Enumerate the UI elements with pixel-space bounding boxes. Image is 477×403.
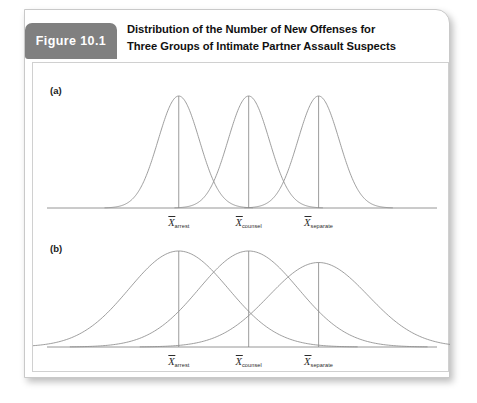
x-bar-overline (169, 355, 176, 356)
x-bar-symbol: X (235, 217, 241, 228)
normal-curve-arrest (33, 251, 358, 347)
x-bar-symbol: X (304, 217, 310, 228)
x-bar-symbol: X (235, 356, 241, 367)
x-bar-symbol: X (168, 356, 174, 367)
mean-label-arrest: Xarrest (168, 212, 189, 230)
mean-label-counsel: Xcounsel (235, 212, 261, 230)
x-bar-overline (236, 216, 243, 217)
figure-root: Figure 10.1 Distribution of the Number o… (0, 0, 477, 403)
x-bar-overline (169, 216, 176, 217)
x-bar-symbol: X (304, 356, 310, 367)
mean-label-subscript: separate (311, 362, 334, 368)
figure-card: Figure 10.1 Distribution of the Number o… (24, 9, 450, 378)
mean-label-subscript: arrest (175, 223, 190, 229)
figure-title-line-2: Three Groups of Intimate Partner Assault… (127, 38, 441, 55)
figure-title: Distribution of the Number of New Offens… (127, 21, 441, 54)
mean-label-counsel: Xcounsel (235, 351, 261, 369)
mean-label-subscript: counsel (242, 362, 262, 368)
figure-number-tag: Figure 10.1 (25, 23, 117, 59)
mean-label-separate: Xseparate (304, 212, 333, 230)
mean-label-subscript: separate (311, 223, 334, 229)
figure-title-line-1: Distribution of the Number of New Offens… (127, 21, 441, 38)
normal-curve-separate (140, 263, 450, 347)
x-bar-overline (305, 216, 312, 217)
mean-label-separate: Xseparate (304, 351, 333, 369)
x-bar-overline (236, 355, 243, 356)
plot-card: (a) (b) XarrestXcounselXseparateXarrestX… (32, 62, 449, 372)
mean-label-arrest: Xarrest (168, 351, 189, 369)
x-bar-symbol: X (168, 217, 174, 228)
x-bar-overline (305, 355, 312, 356)
mean-label-subscript: arrest (175, 362, 190, 368)
mean-label-subscript: counsel (242, 223, 262, 229)
figure-header: Figure 10.1 Distribution of the Number o… (25, 10, 451, 63)
